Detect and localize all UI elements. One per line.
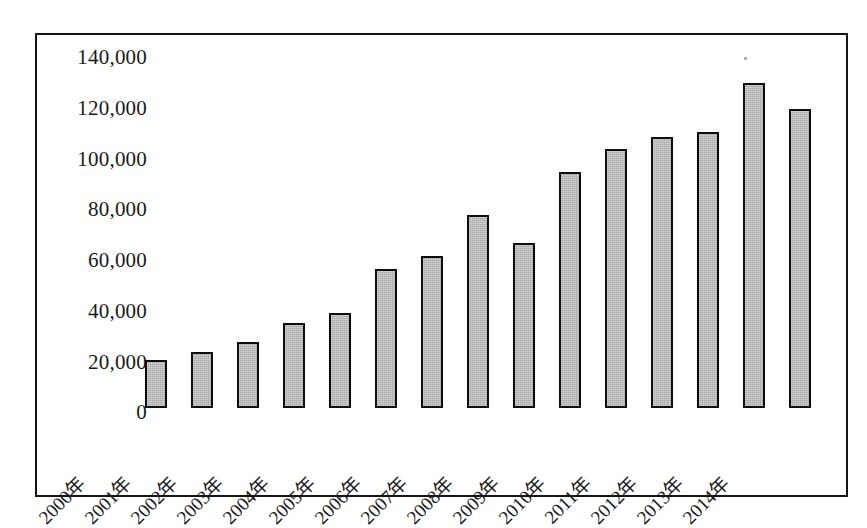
scanned-page: 140,000 120,000 100,000 80,000 60,000 40… (0, 0, 867, 528)
x-tick-label: 2003年 (173, 474, 227, 528)
x-tick-label: 2005年 (265, 474, 319, 528)
x-tick-label: 2012年 (587, 474, 641, 528)
x-tick-label: 2002年 (127, 474, 181, 528)
x-tick-label: 2001年 (81, 474, 135, 528)
x-tick-label: 2007年 (357, 474, 411, 528)
x-tick-label: 2004年 (219, 474, 273, 528)
x-axis: 2000年 2001年 2002年 2003年 2004年 2005年 2006… (37, 35, 846, 495)
x-tick-label: 2014年 (679, 474, 733, 528)
chart-frame: 140,000 120,000 100,000 80,000 60,000 40… (35, 33, 848, 497)
plot-area: 140,000 120,000 100,000 80,000 60,000 40… (37, 35, 846, 495)
x-tick-label: 2006年 (311, 474, 365, 528)
x-tick-label: 2009年 (449, 474, 503, 528)
x-tick-label: 2008年 (403, 474, 457, 528)
scan-speck (744, 57, 747, 60)
x-tick-label: 2011年 (541, 474, 594, 527)
x-tick-label: 2013年 (633, 474, 687, 528)
x-tick-label: 2010年 (495, 474, 549, 528)
x-tick-label: 2000年 (35, 474, 89, 528)
